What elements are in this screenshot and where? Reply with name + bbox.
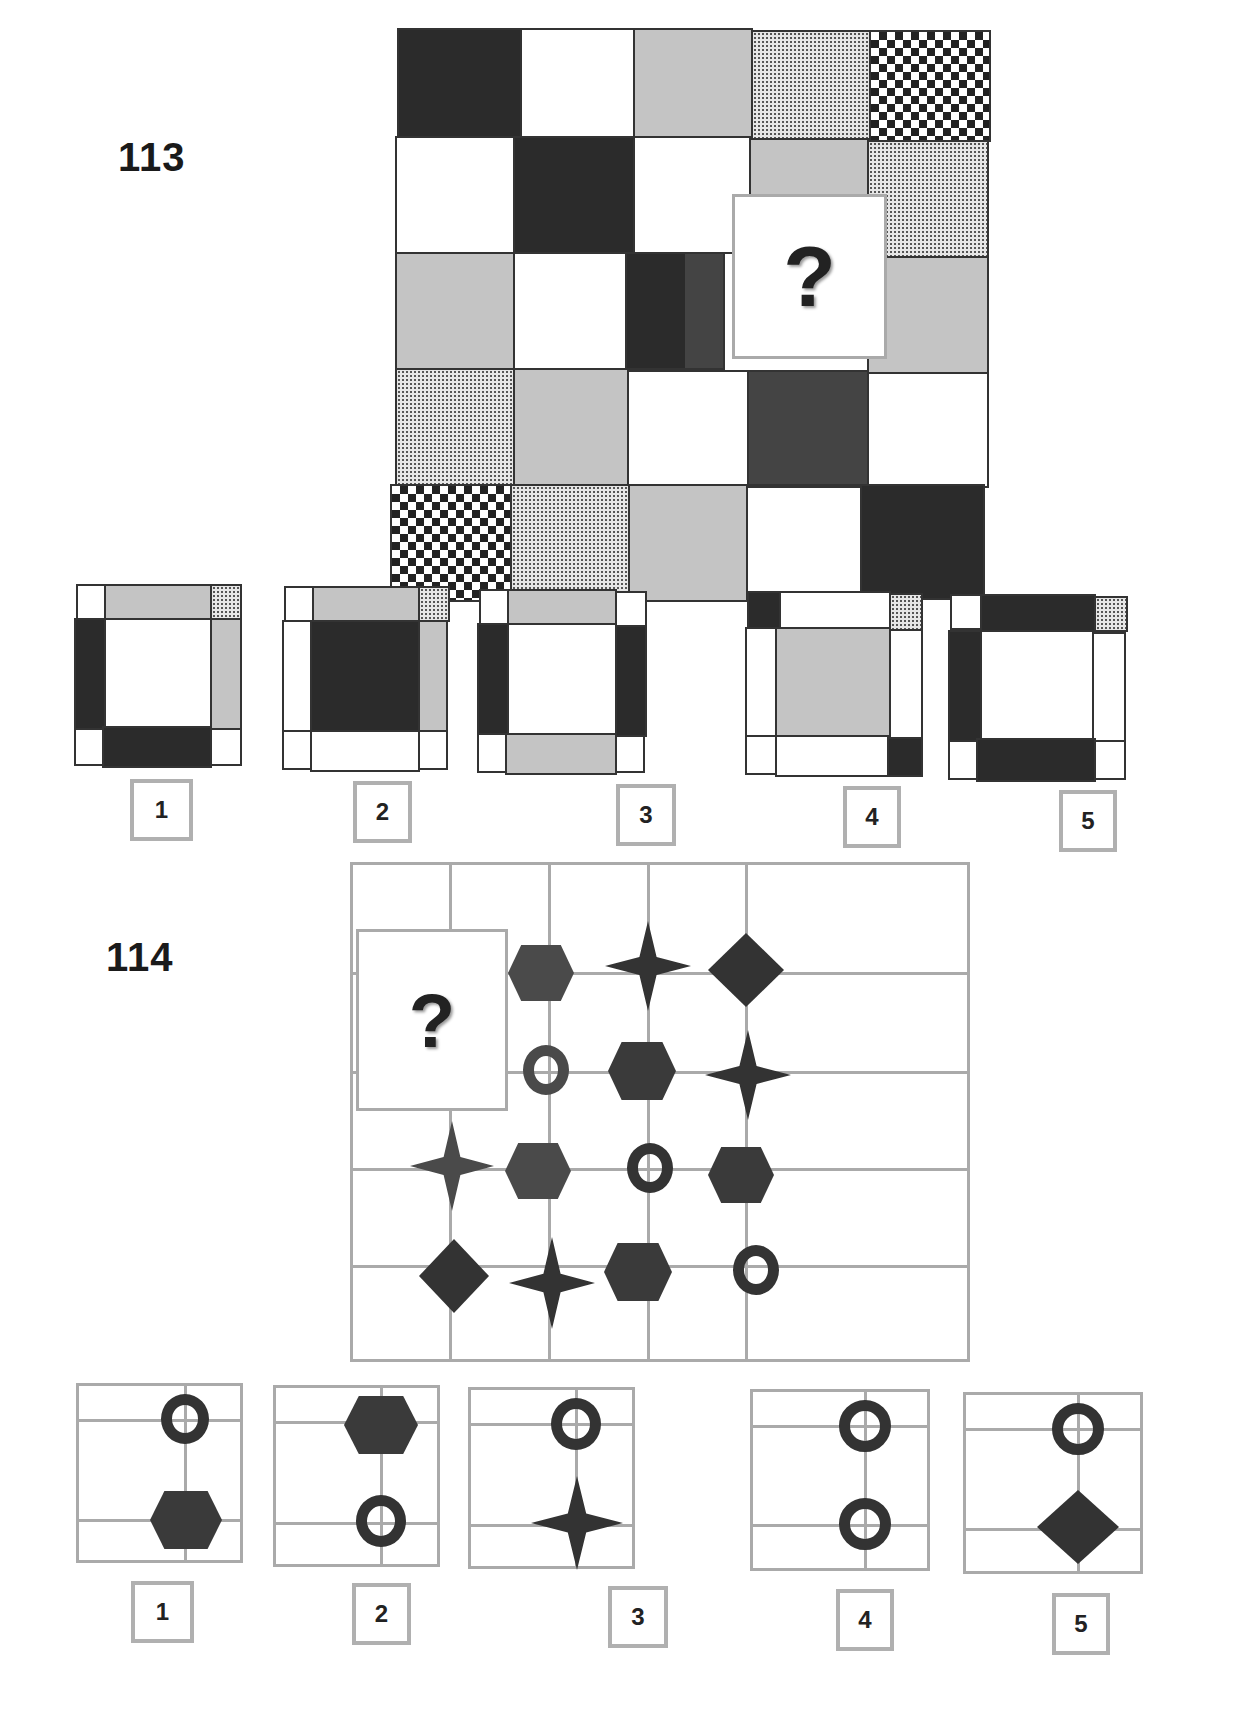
hexagon-shape	[150, 1491, 222, 1549]
opt-tile	[477, 623, 509, 735]
answer-option-114-2[interactable]	[273, 1385, 440, 1567]
grid-cell	[867, 372, 989, 488]
grid-cell	[510, 484, 630, 602]
answer-option-113-2[interactable]	[282, 586, 449, 771]
diamond-shape	[419, 1239, 489, 1313]
opt-tile	[507, 589, 617, 625]
opt-tile	[779, 591, 891, 629]
grid-cell	[869, 30, 991, 142]
answer-option-113-5[interactable]	[948, 594, 1128, 780]
opt-tile	[889, 629, 923, 739]
grid-cell	[747, 370, 869, 486]
opt-tile	[745, 627, 777, 737]
answer-option-113-4[interactable]	[745, 591, 925, 777]
grid-cell	[397, 28, 522, 138]
opt-tile	[507, 623, 617, 735]
missing-cell-placeholder[interactable]: ?	[732, 194, 887, 359]
option-label-113-1[interactable]: 1	[130, 779, 193, 841]
grid-cell	[625, 252, 691, 370]
answer-option-114-1[interactable]	[76, 1383, 243, 1563]
opt-tile	[310, 730, 420, 772]
opt-tile	[950, 594, 982, 630]
question-mark: ?	[409, 977, 455, 1064]
ring-shape	[523, 1045, 569, 1095]
opt-tile	[477, 733, 507, 773]
option-label-113-5[interactable]: 5	[1059, 790, 1117, 852]
opt-tile	[615, 735, 645, 773]
grid-cell	[746, 486, 862, 600]
pattern-grid-113: ?	[395, 28, 1010, 570]
answer-option-113-3[interactable]	[477, 589, 647, 774]
star-shape	[531, 1476, 623, 1570]
opt-tile	[418, 620, 448, 732]
ring-shape	[161, 1394, 209, 1444]
answer-option-114-4[interactable]	[750, 1389, 930, 1571]
grid-cell	[395, 136, 515, 254]
grid-line	[79, 1419, 240, 1422]
option-label-114-4[interactable]: 4	[836, 1589, 894, 1651]
ring-shape	[551, 1398, 601, 1450]
answer-option-113-1[interactable]	[76, 584, 243, 769]
star-shape	[509, 1237, 595, 1329]
grid-cell	[513, 368, 629, 486]
opt-tile	[74, 618, 106, 730]
opt-tile	[76, 584, 106, 620]
grid-cell	[633, 28, 753, 138]
grid-cell	[390, 484, 512, 602]
opt-tile	[210, 728, 242, 766]
opt-tile	[980, 630, 1094, 742]
answer-option-114-5[interactable]	[963, 1392, 1143, 1574]
grid-cell	[860, 484, 985, 600]
hexagon-shape	[708, 1147, 774, 1203]
option-label-113-4[interactable]: 4	[843, 786, 901, 848]
opt-tile	[615, 591, 647, 627]
opt-tile	[948, 630, 982, 742]
grid-cell	[751, 30, 871, 140]
ring-shape	[839, 1400, 891, 1452]
option-label-113-3[interactable]: 3	[616, 784, 676, 846]
opt-tile	[74, 728, 104, 766]
grid-cell	[628, 484, 748, 602]
ring-shape	[839, 1498, 891, 1550]
question-number-114: 114	[106, 935, 174, 980]
question-mark: ?	[783, 227, 836, 326]
diamond-shape	[708, 933, 784, 1007]
ring-shape	[627, 1143, 673, 1193]
opt-tile	[615, 625, 647, 737]
opt-tile	[980, 594, 1096, 632]
grid-cell	[513, 252, 627, 370]
opt-tile	[310, 620, 420, 732]
opt-tile	[210, 584, 242, 620]
ring-shape	[733, 1245, 779, 1295]
diamond-shape	[1037, 1490, 1119, 1564]
hexagon-shape	[508, 945, 574, 1001]
grid-cell	[513, 136, 635, 254]
opt-tile	[284, 586, 314, 622]
answer-option-114-3[interactable]	[468, 1387, 635, 1569]
opt-tile	[745, 735, 777, 775]
option-label-114-2[interactable]: 2	[352, 1583, 411, 1645]
opt-tile	[887, 737, 923, 777]
opt-tile	[1092, 632, 1126, 742]
star-shape	[410, 1121, 494, 1211]
opt-tile	[282, 730, 312, 770]
option-label-113-2[interactable]: 2	[353, 781, 412, 843]
ring-shape	[356, 1495, 406, 1547]
opt-tile	[775, 627, 891, 737]
grid-cell	[395, 368, 515, 486]
pattern-grid-114: ?	[350, 862, 970, 1362]
opt-tile	[479, 589, 509, 625]
opt-tile	[775, 735, 891, 777]
opt-tile	[104, 584, 212, 620]
opt-tile	[505, 733, 617, 775]
question-number-113: 113	[118, 135, 186, 180]
missing-cell-placeholder[interactable]: ?	[356, 929, 508, 1111]
opt-tile	[1094, 596, 1128, 632]
opt-tile	[104, 618, 212, 730]
opt-tile	[282, 620, 312, 732]
option-label-114-1[interactable]: 1	[131, 1581, 194, 1643]
option-label-114-5[interactable]: 5	[1052, 1593, 1110, 1655]
option-label-114-3[interactable]: 3	[608, 1586, 668, 1648]
ring-shape	[1052, 1403, 1104, 1455]
opt-tile	[1094, 740, 1126, 780]
